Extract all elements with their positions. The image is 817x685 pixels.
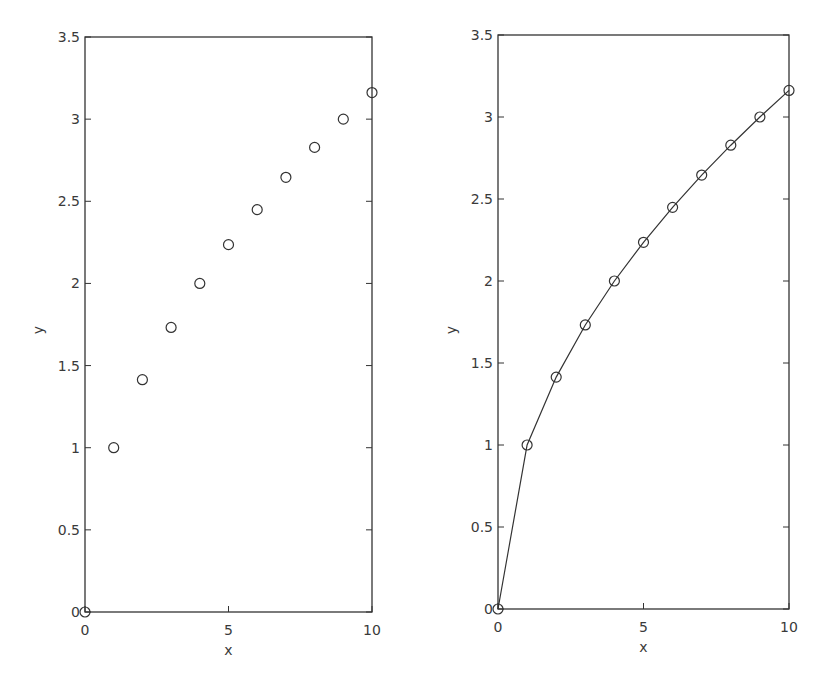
y-tick-label: 1.5	[58, 358, 80, 374]
y-tick-label: 3.5	[58, 29, 80, 45]
y-tick-label: 3.5	[471, 27, 493, 43]
left-plot-panel: 00.511.522.533.50510xy	[30, 29, 381, 658]
data-point-marker	[252, 205, 262, 215]
x-tick-label: 0	[81, 622, 90, 638]
data-point-marker	[137, 375, 147, 385]
y-tick-label: 1	[71, 440, 80, 456]
x-tick-label: 10	[780, 619, 798, 635]
y-tick-label: 1.5	[471, 355, 493, 371]
y-tick-label: 3	[71, 111, 80, 127]
data-line	[498, 90, 789, 609]
data-point-marker	[310, 142, 320, 152]
data-point-marker	[281, 172, 291, 182]
y-tick-label: 0.5	[58, 522, 80, 538]
x-tick-label: 10	[363, 622, 381, 638]
data-point-marker	[166, 322, 176, 332]
figure: 00.511.522.533.50510xy 00.511.522.533.50…	[0, 0, 817, 685]
y-axis-label: y	[443, 326, 459, 334]
y-tick-label: 2	[71, 275, 80, 291]
data-point-marker	[109, 443, 119, 453]
x-tick-label: 0	[494, 619, 503, 635]
axes-frame	[498, 35, 789, 609]
x-tick-label: 5	[224, 622, 233, 638]
right-plot-panel: 00.511.522.533.50510xy	[443, 27, 798, 655]
x-axis-label: x	[639, 639, 647, 655]
axes-frame	[85, 37, 372, 612]
y-tick-label: 1	[484, 437, 493, 453]
data-point-marker	[338, 114, 348, 124]
x-tick-label: 5	[639, 619, 648, 635]
x-axis-label: x	[224, 642, 232, 658]
y-tick-label: 0	[71, 604, 80, 620]
data-point-marker	[195, 278, 205, 288]
y-tick-label: 0	[484, 601, 493, 617]
y-tick-label: 2.5	[58, 193, 80, 209]
y-tick-label: 3	[484, 109, 493, 125]
y-tick-label: 0.5	[471, 519, 493, 535]
y-tick-label: 2	[484, 273, 493, 289]
y-tick-label: 2.5	[471, 191, 493, 207]
data-point-marker	[224, 240, 234, 250]
y-axis-label: y	[30, 326, 46, 334]
